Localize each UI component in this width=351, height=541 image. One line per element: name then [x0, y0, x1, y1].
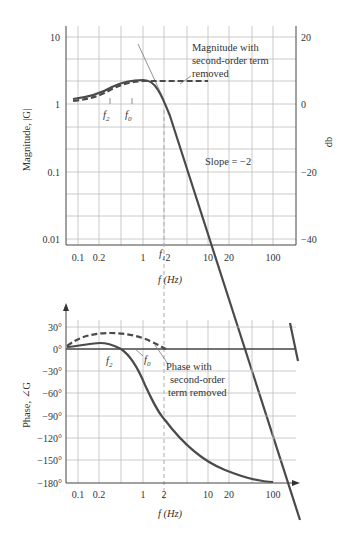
svg-text:20: 20: [224, 252, 234, 263]
f2-label: f2: [103, 109, 110, 123]
phase-y-label: Phase, ∠G: [21, 382, 32, 429]
svg-text:0°: 0°: [53, 344, 62, 355]
svg-text:0.1: 0.1: [72, 252, 85, 263]
phase-x-label: f (Hz): [158, 508, 183, 520]
svg-text:2: 2: [166, 252, 171, 263]
svg-text:0.01: 0.01: [43, 234, 61, 245]
slope-annotation: Slope = −2: [205, 156, 251, 167]
svg-text:−120°: −120°: [37, 433, 62, 444]
phase-f2-label: f2: [106, 355, 113, 369]
svg-text:1: 1: [55, 99, 60, 110]
db-y-ticks: 20 0 −20 −40: [301, 32, 317, 245]
magnitude-y-ticks: 10 1 0.1 0.01: [43, 32, 61, 245]
bode-plot: f2 f0 f1 Magnitude with second-order ter…: [0, 0, 351, 541]
phase-annotation: Phase with second-order term removed: [166, 361, 227, 398]
svg-text:2: 2: [162, 489, 167, 500]
svg-text:30°: 30°: [48, 322, 62, 333]
svg-text:10: 10: [50, 32, 60, 43]
svg-text:0.1: 0.1: [48, 167, 61, 178]
svg-text:−90°: −90°: [42, 411, 62, 422]
svg-text:100: 100: [266, 489, 281, 500]
svg-text:−40: −40: [301, 234, 317, 245]
svg-text:10: 10: [203, 252, 213, 263]
svg-text:20: 20: [224, 489, 234, 500]
svg-text:20: 20: [301, 32, 311, 43]
svg-text:1: 1: [141, 252, 146, 263]
phase-x-ticks: 0.1 0.2 1 2 10 20 100: [72, 489, 281, 500]
svg-text:−20: −20: [301, 167, 317, 178]
phase-y-ticks: 30° 0° −30° −60° −90° −120° −150° −180°: [37, 322, 62, 489]
magnitude-asymptote-continuation: [290, 323, 298, 361]
svg-text:−180°: −180°: [37, 478, 62, 489]
magnitude-y-label: Magnitude, |G|: [21, 109, 32, 172]
f0-label: f0: [125, 109, 132, 123]
svg-text:0.2: 0.2: [93, 252, 106, 263]
svg-text:−30°: −30°: [42, 366, 62, 377]
svg-text:−150°: −150°: [37, 455, 62, 466]
phase-plot: f2 f0 Phase with second-order term remov…: [21, 303, 300, 520]
svg-text:0.2: 0.2: [93, 489, 106, 500]
svg-text:0: 0: [301, 99, 306, 110]
magnitude-plot: f2 f0 f1 Magnitude with second-order ter…: [21, 26, 334, 520]
svg-text:100: 100: [266, 252, 281, 263]
magnitude-x-label: f (Hz): [158, 274, 183, 286]
phase-f0-label: f0: [144, 354, 151, 368]
svg-text:10: 10: [203, 489, 213, 500]
svg-text:1: 1: [141, 489, 146, 500]
svg-text:−60°: −60°: [42, 388, 62, 399]
magnitude-curve: [73, 80, 300, 520]
magnitude-without-second-order: [73, 81, 208, 101]
svg-text:0.1: 0.1: [72, 489, 85, 500]
db-label: db: [323, 137, 334, 148]
magnitude-x-ticks: 0.1 0.2 1 2 10 20 100: [72, 252, 281, 263]
magnitude-annotation: Magnitude with second-order term removed: [192, 42, 271, 79]
